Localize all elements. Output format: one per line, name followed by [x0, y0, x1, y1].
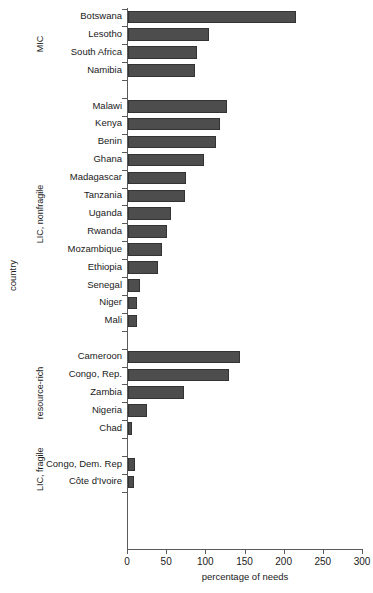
bar [128, 369, 229, 382]
x-axis-tick-label: 0 [107, 556, 147, 567]
x-axis-tick [166, 549, 167, 554]
bar [128, 100, 227, 113]
x-axis-tick-label: 100 [185, 556, 225, 567]
bar-row-label: South Africa [71, 46, 122, 57]
bar-row: Benin [0, 133, 373, 151]
bar-row: Botswana [0, 8, 373, 26]
bar-row: Malawi [0, 98, 373, 116]
bar-row-label: Malawi [92, 100, 122, 111]
bar-row-label: Lesotho [88, 28, 122, 39]
x-axis-tick-label: 200 [264, 556, 304, 567]
bar-row: Congo, Rep. [0, 366, 373, 384]
x-axis-tick-label: 50 [146, 556, 186, 567]
bar-row-label: Cameroon [78, 350, 122, 361]
x-axis-tick [323, 549, 324, 554]
bar-row: Ethiopia [0, 259, 373, 277]
bar [128, 476, 134, 489]
bar [128, 386, 184, 399]
bar-row: Madagascar [0, 169, 373, 187]
bar-row-label: Tanzania [84, 189, 122, 200]
bar-row: Mali [0, 312, 373, 330]
bar-row: Lesotho [0, 26, 373, 44]
bar [128, 297, 137, 310]
bar-row-label: Botswana [80, 10, 122, 21]
bar-row: Niger [0, 294, 373, 312]
bar-chart: country MICLIC, nonfragileresource-richL… [0, 0, 373, 593]
bar-row: Côte d'Ivoire [0, 473, 373, 491]
bar-row-label: Rwanda [87, 225, 122, 236]
bar-row: Tanzania [0, 187, 373, 205]
bar-row-label: Madagascar [70, 171, 122, 182]
bar [128, 11, 296, 24]
bar-row-label: Mali [105, 314, 122, 325]
bar [128, 172, 186, 185]
bar-row-label: Kenya [95, 117, 122, 128]
x-axis-tick [245, 549, 246, 554]
bar-row-label: Uganda [89, 207, 122, 218]
bar-row: Cameroon [0, 348, 373, 366]
bar-row-label: Côte d'Ivoire [69, 475, 122, 486]
x-axis-tick-label: 150 [225, 556, 265, 567]
bar-row-label: Zambia [90, 386, 122, 397]
bar-row-label: Mozambique [68, 243, 122, 254]
bar-row: Zambia [0, 384, 373, 402]
bar-row: Namibia [0, 62, 373, 80]
y-axis-tick [122, 438, 127, 439]
bar-row: South Africa [0, 44, 373, 62]
bar [128, 46, 197, 59]
x-axis-title: percentage of needs [127, 571, 363, 582]
y-axis-tick [122, 492, 127, 493]
bar-row: Chad [0, 420, 373, 438]
y-axis-tick [122, 80, 127, 81]
bar-row-label: Benin [98, 135, 122, 146]
bar-row-label: Nigeria [92, 404, 122, 415]
bar [128, 351, 240, 364]
x-axis-tick [127, 549, 128, 554]
bar [128, 315, 137, 328]
bar-row: Uganda [0, 205, 373, 223]
bar-row-label: Congo, Dem. Rep [46, 458, 122, 469]
bar [128, 28, 209, 41]
x-axis-tick [284, 549, 285, 554]
bar-row: Senegal [0, 277, 373, 295]
bar [128, 261, 158, 274]
bar [128, 279, 140, 292]
x-axis-tick [205, 549, 206, 554]
bar [128, 64, 195, 77]
bar [128, 243, 162, 256]
bar-row-label: Congo, Rep. [69, 368, 122, 379]
y-axis-tick [122, 331, 127, 332]
bar [128, 225, 167, 238]
bar-row-label: Senegal [87, 279, 122, 290]
bar-row-label: Niger [99, 296, 122, 307]
bar-row: Rwanda [0, 223, 373, 241]
bar-row: Congo, Dem. Rep [0, 456, 373, 474]
bar-row-label: Ethiopia [88, 261, 122, 272]
bar-row-label: Ghana [93, 153, 122, 164]
bar [128, 118, 220, 131]
x-axis-tick-label: 300 [342, 556, 373, 567]
bar-row: Nigeria [0, 402, 373, 420]
bar [128, 404, 147, 417]
bar [128, 154, 204, 167]
bar [128, 207, 171, 220]
bar-row-label: Chad [99, 422, 122, 433]
x-axis-tick [362, 549, 363, 554]
bar-row: Ghana [0, 151, 373, 169]
bar [128, 190, 185, 203]
bar-row: Mozambique [0, 241, 373, 259]
bar [128, 136, 216, 149]
bar-row: Kenya [0, 115, 373, 133]
x-axis-tick-label: 250 [303, 556, 343, 567]
bar [128, 422, 132, 435]
bar-row-label: Namibia [87, 64, 122, 75]
bar [128, 458, 135, 471]
